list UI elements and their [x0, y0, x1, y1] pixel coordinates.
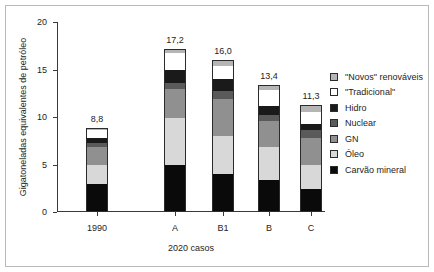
bar-segment	[300, 112, 322, 123]
x-tick-label: B1	[217, 223, 228, 233]
legend-item[interactable]: "Novos" renováveis	[330, 69, 423, 85]
bar-segment	[86, 147, 108, 164]
x-axis-title: 2020 casos	[57, 243, 325, 253]
bar-segment	[212, 136, 234, 174]
chart-legend: "Novos" renováveis"Tradicional"HidroNucl…	[330, 69, 423, 178]
bar-segment	[212, 174, 234, 212]
legend-label: Óleo	[345, 149, 364, 159]
bar-segment	[212, 91, 234, 99]
legend-label: Nuclear	[345, 118, 376, 128]
legend-swatch-icon	[330, 119, 338, 127]
bar-stack[interactable]: 11,3	[300, 105, 322, 212]
y-tick-label: 15	[37, 65, 47, 75]
bar-stack[interactable]: 16,0	[212, 60, 234, 212]
y-tick: 15	[53, 70, 57, 71]
bar-stack[interactable]: 17,2	[164, 49, 186, 212]
x-tick: 1990	[97, 212, 98, 216]
x-tick-label: 1990	[87, 223, 107, 233]
x-tick-label: B	[266, 223, 272, 233]
bar-total-label: 8,8	[91, 114, 104, 124]
x-tick-label: A	[172, 223, 178, 233]
bar-total-label: 13,4	[260, 71, 278, 81]
bar-segment	[164, 165, 186, 213]
bar-segment	[164, 89, 186, 118]
bar-segment	[258, 121, 280, 148]
legend-item[interactable]: GN	[330, 131, 423, 147]
y-tick: 0	[53, 212, 57, 213]
plot-area: 0510152019908,8A17,2B116,0B13,4C11,3	[57, 22, 325, 212]
bar-segment	[86, 130, 108, 138]
bar-stack[interactable]: 13,4	[258, 85, 280, 212]
legend-swatch-icon	[330, 104, 338, 112]
bar-segment	[164, 70, 186, 82]
y-tick-label: 5	[42, 160, 47, 170]
bar-segment	[212, 99, 234, 136]
legend-item[interactable]: "Tradicional"	[330, 85, 423, 101]
bar-segment	[86, 165, 108, 184]
bar-segment	[258, 106, 280, 116]
x-tick: B1	[223, 212, 224, 216]
bar-segment	[86, 184, 108, 213]
y-tick-label: 10	[37, 112, 47, 122]
bar-segment	[300, 130, 322, 138]
x-tick: A	[175, 212, 176, 216]
bar-segment	[258, 90, 280, 105]
bar-segment	[300, 189, 322, 212]
legend-swatch-icon	[330, 135, 338, 143]
legend-label: GN	[345, 134, 359, 144]
bar-segment	[164, 83, 186, 90]
bar-total-label: 11,3	[303, 91, 320, 101]
y-tick: 20	[53, 22, 57, 23]
bar-segment	[212, 79, 234, 91]
bar-stack[interactable]: 8,8	[86, 128, 108, 212]
legend-swatch-icon	[330, 73, 338, 81]
legend-label: "Novos" renováveis	[345, 72, 423, 82]
bar-segment	[300, 138, 322, 166]
legend-swatch-icon	[330, 88, 338, 96]
bar-segment	[212, 66, 234, 79]
bar-segment	[300, 165, 322, 189]
legend-item[interactable]: Óleo	[330, 147, 423, 163]
legend-label: Carvão mineral	[345, 165, 406, 175]
legend-item[interactable]: Carvão mineral	[330, 162, 423, 178]
y-axis-line	[57, 22, 58, 212]
bar-total-label: 16,0	[214, 46, 232, 56]
bar-segment	[164, 53, 186, 70]
x-tick-label: C	[308, 223, 315, 233]
x-tick: B	[269, 212, 270, 216]
y-tick: 5	[53, 165, 57, 166]
y-tick-label: 0	[42, 207, 47, 217]
x-tick: C	[311, 212, 312, 216]
bar-segment	[300, 105, 322, 113]
bar-segment	[258, 147, 280, 179]
y-tick-label: 20	[37, 17, 47, 27]
y-tick: 10	[53, 117, 57, 118]
bar-segment	[164, 118, 186, 165]
y-axis-title: Gigatoneladas equivalentes de petróleo	[16, 22, 30, 212]
bar-segment	[258, 180, 280, 212]
legend-label: Hidro	[345, 103, 367, 113]
legend-label: "Tradicional"	[345, 87, 395, 97]
legend-swatch-icon	[330, 150, 338, 158]
legend-swatch-icon	[330, 166, 338, 174]
bar-segment	[300, 124, 322, 131]
legend-item[interactable]: Nuclear	[330, 116, 423, 132]
chart-figure: Gigatoneladas equivalentes de petróleo 0…	[0, 0, 434, 272]
bar-total-label: 17,2	[166, 35, 184, 45]
legend-item[interactable]: Hidro	[330, 100, 423, 116]
